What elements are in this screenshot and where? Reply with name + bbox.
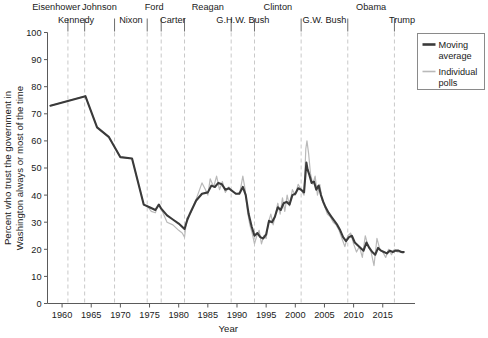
president-label-carter: Carter	[160, 15, 186, 25]
chart-svg: 0102030405060708090100 19601965197019751…	[0, 0, 488, 338]
president-labels: EisenhowerKennedyJohnsonNixonFordCarterR…	[32, 2, 415, 25]
trust-in-government-chart: 0102030405060708090100 19601965197019751…	[0, 0, 488, 338]
y-tick-label-100: 100	[26, 28, 41, 38]
x-tick-label-2015: 2015	[373, 310, 393, 320]
y-tick-label-50: 50	[31, 163, 41, 173]
y-tick-label-60: 60	[31, 136, 41, 146]
x-axis-title: Year	[219, 323, 239, 334]
legend-label-individual-polls-line-2: polls	[439, 78, 458, 88]
y-tick-label-80: 80	[31, 82, 41, 92]
chart-legend[interactable]: MovingaverageIndividualpolls	[418, 34, 485, 90]
y-tick-label-70: 70	[31, 109, 41, 119]
y-axis-ticks: 0102030405060708090100	[26, 28, 47, 309]
president-label-johnson: Johnson	[82, 2, 117, 12]
president-label-obama: Obama	[356, 2, 387, 12]
y-tick-label-0: 0	[36, 299, 41, 309]
president-label-nixon: Nixon	[119, 15, 143, 25]
president-label-g-h-w-bush: G.H.W. Bush	[216, 15, 269, 25]
y-tick-label-30: 30	[31, 218, 41, 228]
x-tick-label-1980: 1980	[168, 310, 188, 320]
x-tick-label-1990: 1990	[227, 310, 247, 320]
president-label-g-w-bush: G.W. Bush	[302, 15, 346, 25]
x-axis-ticks: 1960196519701975198019851990199520002005…	[52, 304, 393, 321]
legend-label-moving-average-line-2: average	[439, 51, 472, 61]
president-label-eisenhower: Eisenhower	[32, 2, 80, 12]
y-tick-label-10: 10	[31, 272, 41, 282]
y-axis-title-line-2: Washington always or most of the time	[14, 86, 25, 250]
legend-label-individual-polls-line-1: Individual	[439, 67, 478, 77]
x-tick-label-1985: 1985	[198, 310, 218, 320]
x-tick-label-2005: 2005	[314, 310, 334, 320]
axis-titles: YearPercent who trust the government inW…	[2, 86, 239, 334]
series-line-moving-average	[50, 96, 403, 255]
data-series-layer	[50, 96, 403, 265]
y-axis-title-line-1: Percent who trust the government in	[2, 91, 13, 245]
x-tick-label-1995: 1995	[256, 310, 276, 320]
x-tick-label-1960: 1960	[52, 310, 72, 320]
president-divider-lines	[68, 19, 395, 304]
x-tick-label-2000: 2000	[285, 310, 305, 320]
x-tick-label-1975: 1975	[139, 310, 159, 320]
x-tick-label-1965: 1965	[81, 310, 101, 320]
x-tick-label-2010: 2010	[343, 310, 363, 320]
series-line-individual-polls	[50, 96, 403, 265]
president-label-reagan: Reagan	[192, 2, 224, 12]
president-label-kennedy: Kennedy	[58, 15, 95, 25]
president-label-trump: Trump	[389, 15, 415, 25]
president-label-ford: Ford	[145, 2, 164, 12]
y-tick-label-90: 90	[31, 55, 41, 65]
x-tick-label-1970: 1970	[110, 310, 130, 320]
y-tick-label-20: 20	[31, 245, 41, 255]
y-tick-label-40: 40	[31, 191, 41, 201]
president-label-clinton: Clinton	[264, 2, 293, 12]
legend-label-moving-average-line-1: Moving	[439, 40, 469, 50]
